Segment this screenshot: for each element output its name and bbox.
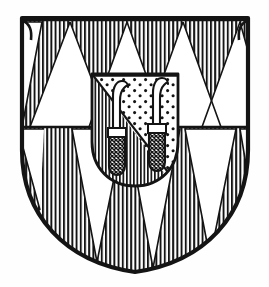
coat-of-arms-image [0, 0, 269, 287]
billhook-left-ferrule [108, 128, 126, 137]
billhook-right-ferrule [148, 124, 166, 133]
coat-of-arms-svg [0, 0, 269, 287]
billhook-left-handle [109, 137, 125, 175]
billhook-right-handle [149, 133, 165, 171]
